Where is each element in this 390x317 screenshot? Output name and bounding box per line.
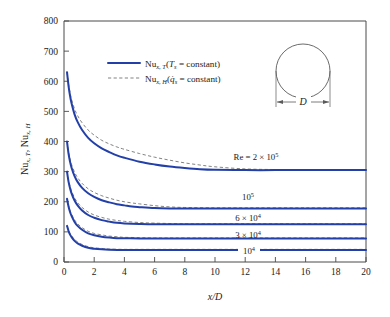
y-tick-label: 800 <box>44 16 59 26</box>
legend-h-eq: = constant <box>177 74 218 84</box>
x-tick-label: 10 <box>210 267 220 277</box>
x-axis-title: x/D <box>207 291 223 302</box>
x-title-text: x/D <box>207 291 223 302</box>
figure-container: 0100200300400500600700800 02468101214161… <box>0 0 390 317</box>
y-tick-label: 100 <box>44 227 59 237</box>
dim-label-D: D <box>298 96 307 107</box>
legend-h-paren-close: ) <box>218 74 221 84</box>
y-tick-label: 500 <box>44 107 59 117</box>
x-tick-label: 8 <box>182 267 187 277</box>
ann2-exp: 5 <box>251 191 254 198</box>
nusselt-number-chart: 0100200300400500600700800 02468101214161… <box>0 0 390 317</box>
ann1-prefix: Re = 2 <box>234 152 260 162</box>
ann4-base: 10 <box>247 230 259 240</box>
y-tick-label: 400 <box>44 137 59 147</box>
annotation-re-2e5: Re = 2 × 105 <box>234 151 279 163</box>
x-tick-label: 20 <box>361 267 371 277</box>
y-tick-label: 700 <box>44 47 59 57</box>
ann3-prefix: 6 <box>235 213 242 223</box>
y-tick-label: 0 <box>53 257 58 267</box>
ann1-exp: 5 <box>275 151 278 158</box>
y-axis-tick-labels: 0100200300400500600700800 <box>44 16 59 267</box>
y-title-nu1: Nu <box>19 163 30 175</box>
x-tick-label: 4 <box>122 267 127 277</box>
legend-t-eq: = constant <box>177 59 218 69</box>
x-tick-label: 12 <box>240 267 250 277</box>
legend-t-paren-close: ) <box>217 59 220 69</box>
x-tick-label: 2 <box>92 267 97 277</box>
ann3-base: 10 <box>247 213 259 223</box>
y-tick-label: 600 <box>44 77 59 87</box>
legend-h-nu: Nu <box>145 74 157 84</box>
legend-h-sub: x, H <box>155 78 167 85</box>
y-title-nu2: Nu <box>19 135 30 147</box>
x-tick-label: 16 <box>301 267 311 277</box>
y-title-sub2: x, H <box>24 122 32 136</box>
x-tick-label: 0 <box>62 267 67 277</box>
legend-t-nu: Nu <box>145 59 157 69</box>
ann1-base: 10 <box>264 152 276 162</box>
y-tick-label: 200 <box>44 197 59 207</box>
ann4-prefix: 3 <box>235 230 242 240</box>
legend-t-sub: x, T <box>155 63 166 70</box>
x-tick-label: 6 <box>152 267 157 277</box>
x-tick-label: 18 <box>331 267 341 277</box>
x-tick-label: 14 <box>271 267 281 277</box>
y-tick-label: 300 <box>44 167 59 177</box>
